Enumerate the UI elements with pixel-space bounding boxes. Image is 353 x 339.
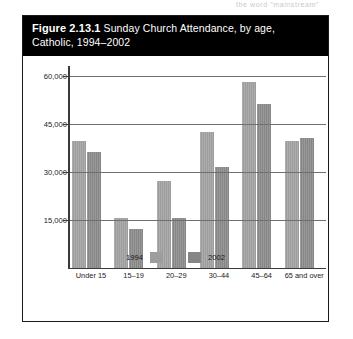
bars-layer [70, 66, 326, 268]
x-axis-tick-label: 65 and over [285, 271, 324, 280]
bar-1994 [200, 132, 214, 268]
legend-swatch-1994 [150, 252, 163, 263]
gridline [70, 172, 326, 173]
y-axis-tick-mark [63, 172, 69, 173]
x-axis-labels: Under 1515–1920–2930–4445–6465 and over [70, 271, 326, 287]
bar-group [198, 66, 241, 268]
y-axis-tick-mark [63, 220, 69, 221]
bar-1994 [72, 141, 86, 267]
figure-page: the word "mainstream" Figure 2.13.1 Sund… [0, 0, 353, 339]
bar-group [112, 66, 155, 268]
bar-group [283, 66, 326, 268]
gridline [70, 76, 326, 77]
chart-legend: 1994 2002 [23, 252, 328, 263]
figure-number: Figure 2.13.1 [32, 22, 101, 34]
figure-title-bar: Figure 2.13.1 Sunday Church Attendance, … [23, 16, 328, 56]
figure-container: Figure 2.13.1 Sunday Church Attendance, … [22, 15, 329, 322]
bar-group [70, 66, 113, 268]
bar-group [240, 66, 283, 268]
legend-label-2002: 2002 [208, 253, 225, 262]
y-axis-tick-mark [63, 76, 69, 77]
bar-group [155, 66, 198, 268]
chart-plot-area: 15,00030,00045,00060,000 Under 1515–1920… [23, 56, 328, 308]
bar-2002 [300, 138, 314, 268]
x-axis-tick-label: 45–64 [251, 271, 272, 280]
y-axis-tick-mark [63, 124, 69, 125]
bar-1994 [242, 82, 256, 268]
x-axis-line [68, 268, 326, 270]
bar-1994 [285, 141, 299, 267]
gridline [70, 124, 326, 125]
x-axis-tick-label: 30–44 [209, 271, 230, 280]
bar-2002 [257, 104, 271, 267]
legend-label-1994: 1994 [126, 253, 143, 262]
bar-2002 [87, 152, 101, 267]
x-axis-tick-label: 15–19 [123, 271, 144, 280]
gridline [70, 220, 326, 221]
legend-swatch-2002 [188, 252, 201, 263]
y-axis-labels: 15,00030,00045,00060,000 [27, 56, 67, 308]
x-axis-tick-label: 20–29 [166, 271, 187, 280]
x-axis-tick-label: Under 15 [76, 271, 106, 280]
page-bleed-text: the word "mainstream" [236, 1, 319, 8]
